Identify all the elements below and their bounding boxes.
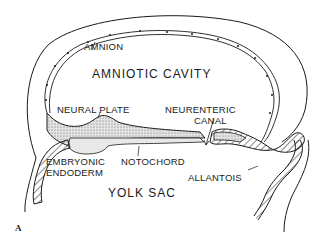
leader-allantois	[248, 166, 258, 170]
label-neurenteric-line2: CANAL	[194, 115, 227, 126]
leader-notochord	[138, 146, 139, 156]
label-notochord: NOTOCHORD	[121, 156, 185, 167]
label-allantois: ALLANTOIS	[188, 172, 242, 183]
label-neural-plate: NEURAL PLATE	[57, 104, 130, 115]
figure-label: A	[15, 223, 22, 233]
label-embryonic-line1: EMBRYONIC	[46, 156, 105, 167]
allantois-hatch	[254, 140, 302, 220]
embryo-diagram	[0, 0, 328, 240]
notochord-region	[68, 138, 204, 154]
amnion-membrane-a	[45, 31, 280, 142]
label-amnion: AMNION	[84, 41, 123, 52]
label-neurenteric-line1: NEURENTERIC	[165, 104, 236, 115]
label-yolk-sac: YOLK SAC	[108, 186, 176, 200]
label-embryonic-line2: ENDODERM	[46, 167, 103, 178]
label-amniotic-cavity: AMNIOTIC CAVITY	[92, 67, 211, 81]
